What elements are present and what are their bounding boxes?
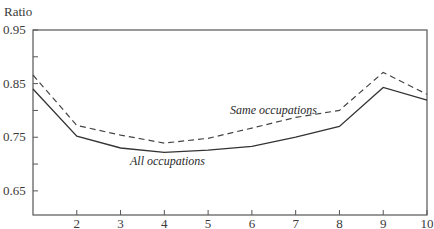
- x-tick-label: 7: [292, 216, 299, 229]
- plot-frame: [33, 30, 427, 215]
- x-tick-label: 5: [205, 216, 212, 229]
- y-tick-label: 0.95: [3, 22, 26, 37]
- y-tick-label: 0.65: [3, 183, 26, 198]
- x-tick-label: 6: [249, 216, 256, 229]
- y-tick-label: 0.75: [3, 129, 26, 144]
- x-tick-label: 2: [74, 216, 81, 229]
- x-tick-label: 4: [161, 216, 168, 229]
- y-axis-title: Ratio: [4, 4, 32, 19]
- x-axis: 2345678910: [74, 210, 434, 229]
- x-tick-label: 9: [380, 216, 387, 229]
- x-tick-label: 10: [421, 216, 434, 229]
- line-chart: Ratio 0.950.850.750.65 2345678910 Same o…: [0, 0, 434, 229]
- series-label-all-occupations: All occupations: [129, 154, 205, 168]
- x-tick-label: 3: [117, 216, 124, 229]
- series-all-occupations-line: [33, 87, 427, 152]
- x-tick-label: 8: [336, 216, 343, 229]
- y-tick-label: 0.85: [3, 76, 26, 91]
- series-label-same-occupations: Same occupations: [230, 103, 317, 117]
